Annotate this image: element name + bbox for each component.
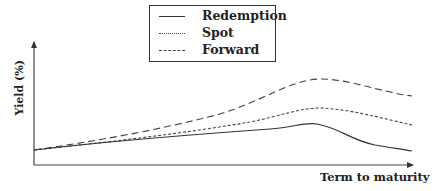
legend-label: Redemption — [202, 8, 287, 24]
x-axis-label: Term to maturity — [320, 170, 430, 184]
dotted-line-swatch-icon — [159, 33, 185, 34]
chart-legend: Redemption Spot Forward — [149, 5, 276, 62]
legend-label: Spot — [202, 25, 234, 41]
y-axis-label: Yield (%) — [13, 66, 26, 116]
series-forward-line — [34, 79, 412, 150]
legend-item-redemption: Redemption — [150, 8, 275, 24]
series-redemption-line — [34, 124, 412, 151]
legend-label: Forward — [202, 42, 259, 58]
legend-item-forward: Forward — [150, 42, 275, 58]
dashed-line-swatch-icon — [159, 50, 185, 51]
legend-item-spot: Spot — [150, 25, 275, 41]
solid-line-swatch-icon — [159, 16, 185, 17]
